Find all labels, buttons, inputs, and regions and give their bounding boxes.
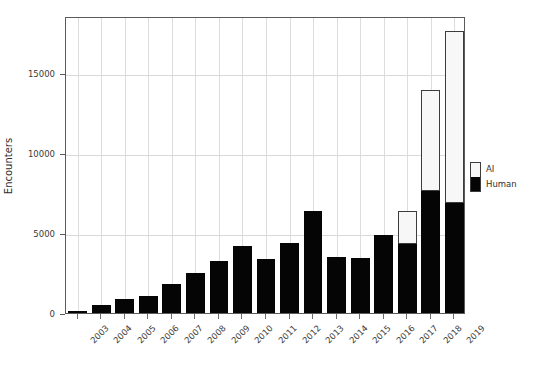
y-tick-label: 15000 bbox=[28, 69, 55, 79]
bar-2015[interactable] bbox=[351, 18, 370, 313]
x-tick-mark bbox=[124, 314, 125, 319]
x-tick-label-2011: 2011 bbox=[276, 323, 298, 345]
x-tick-label-2006: 2006 bbox=[158, 323, 180, 345]
bar-segment-human[interactable] bbox=[374, 235, 393, 313]
legend-label: AI bbox=[486, 162, 494, 177]
bar-2008[interactable] bbox=[186, 18, 205, 313]
x-tick-label-2003: 2003 bbox=[88, 323, 110, 345]
plot-inner bbox=[66, 18, 464, 313]
bar-2012[interactable] bbox=[280, 18, 299, 313]
bar-2017[interactable] bbox=[398, 18, 417, 313]
x-tick-label-2016: 2016 bbox=[394, 323, 416, 345]
bar-segment-human[interactable] bbox=[421, 191, 440, 313]
bar-2004[interactable] bbox=[92, 18, 111, 313]
x-axis: 2003200420052006200720082009201020112012… bbox=[65, 314, 465, 365]
x-tick-mark bbox=[241, 314, 242, 319]
x-tick-label-2005: 2005 bbox=[135, 323, 157, 345]
x-tick-label-2015: 2015 bbox=[370, 323, 392, 345]
x-tick-label-2018: 2018 bbox=[441, 323, 463, 345]
bar-segment-human[interactable] bbox=[257, 259, 276, 313]
bar-segment-human[interactable] bbox=[351, 258, 370, 313]
legend-item-human[interactable]: Human bbox=[470, 177, 517, 192]
bar-segment-human[interactable] bbox=[115, 299, 134, 313]
bar-2011[interactable] bbox=[257, 18, 276, 313]
bar-segment-human[interactable] bbox=[210, 261, 229, 313]
bar-segment-human[interactable] bbox=[162, 284, 181, 313]
bar-2013[interactable] bbox=[304, 18, 323, 313]
x-tick-label-2007: 2007 bbox=[182, 323, 204, 345]
x-tick-mark bbox=[406, 314, 407, 319]
legend-item-ai[interactable]: AI bbox=[470, 162, 517, 177]
x-tick-mark bbox=[312, 314, 313, 319]
legend-label: Human bbox=[486, 177, 517, 192]
bar-segment-ai[interactable] bbox=[398, 211, 417, 244]
x-tick-label-2010: 2010 bbox=[252, 323, 274, 345]
bar-2019[interactable] bbox=[445, 18, 464, 313]
y-tick-label: 5000 bbox=[33, 229, 55, 239]
x-tick-label-2012: 2012 bbox=[300, 323, 322, 345]
bar-2009[interactable] bbox=[210, 18, 229, 313]
x-tick-mark bbox=[383, 314, 384, 319]
x-tick-mark bbox=[194, 314, 195, 319]
bar-2003[interactable] bbox=[68, 18, 87, 313]
x-tick-mark bbox=[430, 314, 431, 319]
bar-segment-human[interactable] bbox=[398, 244, 417, 313]
y-tick-label: 0 bbox=[50, 309, 55, 319]
bar-segment-human[interactable] bbox=[233, 246, 252, 313]
x-tick-mark bbox=[147, 314, 148, 319]
plot-area bbox=[65, 17, 465, 314]
bar-segment-human[interactable] bbox=[92, 305, 111, 313]
y-tick-label: 10000 bbox=[28, 149, 55, 159]
x-tick-label-2004: 2004 bbox=[111, 323, 133, 345]
bar-2014[interactable] bbox=[327, 18, 346, 313]
x-tick-label-2014: 2014 bbox=[347, 323, 369, 345]
x-tick-mark bbox=[453, 314, 454, 319]
x-tick-label-2008: 2008 bbox=[205, 323, 227, 345]
bar-2016[interactable] bbox=[374, 18, 393, 313]
bar-2018[interactable] bbox=[421, 18, 440, 313]
legend-swatch-human bbox=[470, 177, 481, 192]
x-tick-label-2009: 2009 bbox=[229, 323, 251, 345]
bar-2005[interactable] bbox=[115, 18, 134, 313]
x-tick-mark bbox=[265, 314, 266, 319]
bar-segment-human[interactable] bbox=[280, 243, 299, 313]
bar-segment-human[interactable] bbox=[445, 203, 464, 313]
x-tick-label-2013: 2013 bbox=[323, 323, 345, 345]
y-axis: 050001000015000 bbox=[0, 0, 65, 365]
bar-segment-human[interactable] bbox=[327, 257, 346, 313]
chart-legend: AIHuman bbox=[470, 162, 517, 192]
bar-2007[interactable] bbox=[162, 18, 181, 313]
x-tick-mark bbox=[289, 314, 290, 319]
bar-segment-human[interactable] bbox=[186, 273, 205, 313]
bar-segment-ai[interactable] bbox=[445, 31, 464, 203]
bar-segment-ai[interactable] bbox=[421, 90, 440, 191]
legend-swatch-ai bbox=[470, 162, 481, 177]
x-tick-label-2017: 2017 bbox=[417, 323, 439, 345]
x-tick-mark bbox=[171, 314, 172, 319]
x-tick-mark bbox=[77, 314, 78, 319]
x-tick-label-2019: 2019 bbox=[464, 323, 486, 345]
x-tick-mark bbox=[218, 314, 219, 319]
x-tick-mark bbox=[336, 314, 337, 319]
bar-2006[interactable] bbox=[139, 18, 158, 313]
x-tick-mark bbox=[100, 314, 101, 319]
bar-segment-human[interactable] bbox=[68, 311, 87, 313]
x-tick-mark bbox=[359, 314, 360, 319]
bar-segment-human[interactable] bbox=[139, 296, 158, 313]
chart-root: Encounters 050001000015000 2003200420052… bbox=[0, 0, 540, 365]
bar-segment-human[interactable] bbox=[304, 211, 323, 313]
bar-2010[interactable] bbox=[233, 18, 252, 313]
